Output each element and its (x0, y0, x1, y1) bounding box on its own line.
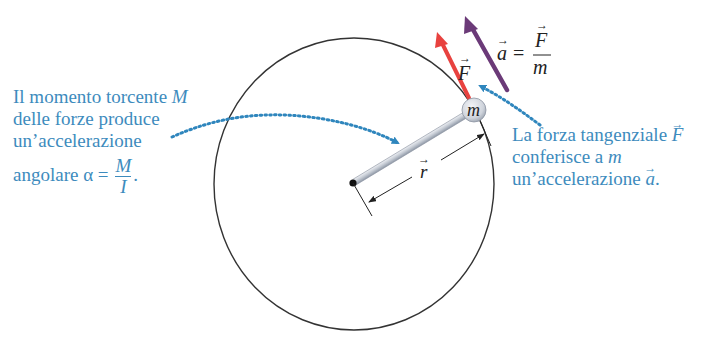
torque-caption: Il momento torcente M delle forze produc… (13, 86, 188, 197)
svg-text:=: = (513, 42, 524, 64)
fraction-numerator: M (115, 156, 131, 176)
svg-text:F: F (534, 29, 548, 51)
svg-text:→: → (497, 33, 509, 47)
caption-text: un’accelerazione (512, 168, 645, 189)
caption-period: . (133, 164, 138, 185)
force-symbol: F (672, 124, 684, 146)
caption-text: conferisce a (512, 146, 608, 167)
torque-caption-line1: Il momento torcente M (13, 86, 188, 108)
acceleration-formula: a → = F → m (497, 18, 551, 78)
caption-text: angolare α = (13, 164, 109, 185)
torque-symbol: M (172, 86, 188, 107)
force-caption-line2: conferisce a m (512, 146, 683, 168)
force-caption-line3: un’accelerazione a. (512, 168, 683, 190)
rod (351, 107, 475, 186)
mass-label: m (467, 100, 480, 120)
force-label: F (457, 62, 471, 84)
fraction-denominator: I (120, 177, 126, 197)
radius-vector-arrow-glyph: → (418, 152, 430, 166)
torque-caption-line4: angolare α = M I . (13, 156, 188, 197)
torque-caption-line2: delle forze produce (13, 108, 188, 130)
angular-acceleration-fraction: M I (115, 156, 131, 197)
torque-dotted-arrow (172, 115, 398, 143)
acceleration-symbol: a (645, 168, 655, 190)
caption-text: La forza tangenziale (512, 124, 672, 145)
mass-symbol: m (608, 146, 622, 167)
force-caption-line1: La forza tangenziale F (512, 124, 683, 146)
force-dotted-arrow (480, 86, 540, 125)
force-caption: La forza tangenziale F conferisce a m un… (512, 124, 683, 190)
torque-caption-line3: un’accelerazione (13, 130, 188, 152)
caption-text: Il momento torcente (13, 86, 172, 107)
svg-text:m: m (533, 56, 547, 78)
force-label-arrow-glyph: → (459, 51, 471, 65)
svg-text:→: → (536, 18, 548, 32)
